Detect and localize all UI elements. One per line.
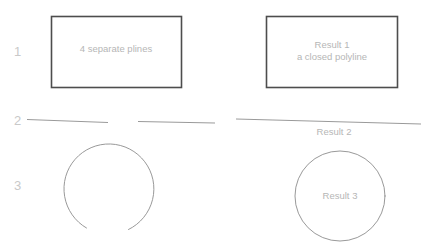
before-open-arc-row3 xyxy=(64,144,154,230)
row-number-1: 1 xyxy=(14,44,21,59)
after-label-row3: Result 3 xyxy=(323,190,358,201)
row-number-3: 3 xyxy=(14,178,21,193)
after-label-row2: Result 2 xyxy=(317,126,352,137)
row-number-2: 2 xyxy=(14,113,21,128)
after-label-row1-line1: Result 1 xyxy=(315,39,350,50)
diagram-svg: 1 4 separate plines Result 1 a closed po… xyxy=(0,0,437,251)
diagram-canvas: 1 4 separate plines Result 1 a closed po… xyxy=(0,0,437,251)
before-label-row1: 4 separate plines xyxy=(80,43,153,54)
after-segment-row2 xyxy=(236,119,421,124)
before-segment-row2-a xyxy=(27,120,108,123)
after-label-row1-line2: a closed polyline xyxy=(297,51,367,62)
before-segment-row2-b xyxy=(138,122,215,124)
